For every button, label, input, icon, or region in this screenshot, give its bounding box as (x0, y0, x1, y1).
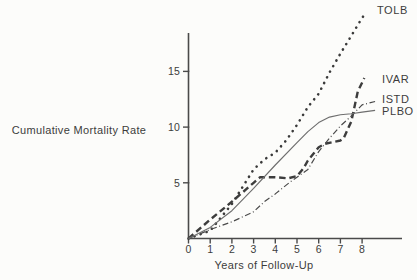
x-tick-label: 2 (229, 243, 235, 255)
axes (189, 33, 403, 239)
x-tick-label: 3 (251, 243, 257, 255)
series-line-tolb (189, 12, 367, 238)
x-tick-label: 7 (337, 243, 343, 255)
series-line-ivar (189, 78, 365, 238)
y-tick-label: 15 (168, 65, 180, 77)
series-line-plbo (189, 110, 376, 238)
cumulative-mortality-figure: Cumulative Mortality Rate Years of Follo… (0, 0, 417, 280)
x-tick-label: 6 (316, 243, 322, 255)
series-label-tolb: TOLB (377, 4, 408, 16)
x-tick-label: 1 (207, 243, 213, 255)
x-tick-label: 5 (294, 243, 300, 255)
y-axis-title: Cumulative Mortality Rate (12, 124, 147, 136)
chart-canvas: Cumulative Mortality Rate Years of Follo… (0, 0, 417, 280)
series-lines (189, 12, 376, 238)
y-tick-label: 10 (168, 121, 180, 133)
series-label-istd: ISTD (382, 93, 409, 105)
x-tick-label: 8 (359, 243, 365, 255)
series-label-ivar: IVAR (382, 73, 409, 85)
series-labels: TOLBIVARISTDPLBO (377, 4, 414, 117)
x-tick-label: 0 (185, 243, 191, 255)
x-axis-title: Years of Follow-Up (215, 259, 314, 271)
series-label-plbo: PLBO (382, 105, 414, 117)
x-tick-label: 4 (272, 243, 278, 255)
series-line-istd (189, 102, 376, 239)
axis-ticks: 51015012345678 (168, 65, 365, 254)
y-tick-label: 5 (174, 177, 180, 189)
